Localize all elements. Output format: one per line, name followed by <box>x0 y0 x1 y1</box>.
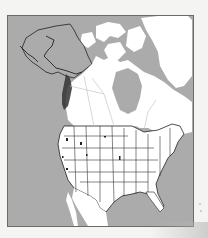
speck <box>200 210 202 212</box>
arctic-islands <box>80 22 146 60</box>
north-america-map <box>8 16 193 226</box>
map-frame <box>7 15 194 227</box>
page-shadow <box>150 222 208 238</box>
speck <box>199 203 201 205</box>
alaska-landmass <box>22 24 92 78</box>
